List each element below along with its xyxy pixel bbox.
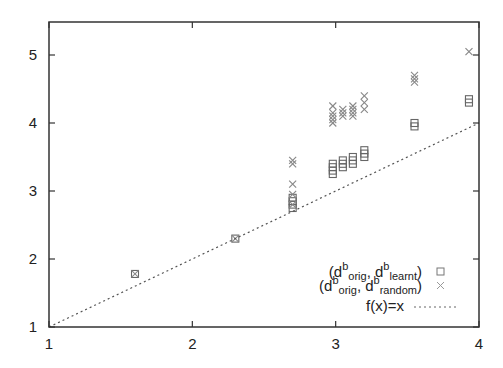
series-1 xyxy=(132,48,473,277)
data-point-x xyxy=(361,99,368,106)
y-tick-label: 2 xyxy=(29,250,37,267)
legend-marker-square xyxy=(437,268,444,275)
data-point-x xyxy=(349,106,356,113)
data-point-x xyxy=(329,113,336,120)
y-tick-label: 5 xyxy=(29,46,37,63)
scatter-chart: 123412345 (dborig, dblearnt) (dborig, db… xyxy=(0,0,503,368)
data-point-x xyxy=(349,113,356,120)
data-point-x xyxy=(411,79,418,86)
x-tick-label: 3 xyxy=(331,335,339,352)
data-point-x xyxy=(289,160,296,167)
legend-entry-identity: f(x)=x xyxy=(366,297,404,314)
data-point-x xyxy=(361,92,368,99)
data-point-x xyxy=(349,109,356,116)
data-point-x xyxy=(132,270,139,277)
data-point-x xyxy=(289,181,296,188)
x-tick-label: 4 xyxy=(475,335,483,352)
axes: 123412345 xyxy=(29,22,484,352)
data-point-x xyxy=(289,157,296,164)
y-tick-label: 3 xyxy=(29,182,37,199)
legend-marker-x xyxy=(437,282,444,289)
data-point-x xyxy=(329,120,336,127)
series-0 xyxy=(132,96,473,278)
x-tick-label: 2 xyxy=(188,335,196,352)
y-tick-label: 4 xyxy=(29,114,37,131)
data-point-x xyxy=(349,103,356,110)
data-point-x xyxy=(329,109,336,116)
data-point-x xyxy=(329,116,336,123)
legend: (dborig, dblearnt) (dborig, dbrandom) f(… xyxy=(319,260,458,314)
series-2 xyxy=(49,123,479,327)
data-point-x xyxy=(411,75,418,82)
data-point-x xyxy=(339,113,346,120)
data-point-x xyxy=(411,72,418,79)
data-point-x xyxy=(361,106,368,113)
data-point-x xyxy=(329,103,336,110)
data-point-x xyxy=(339,106,346,113)
y-tick-label: 1 xyxy=(29,318,37,335)
data-point-x xyxy=(339,109,346,116)
x-tick-label: 1 xyxy=(45,335,53,352)
data-point-x xyxy=(465,48,472,55)
identity-line xyxy=(49,123,479,327)
